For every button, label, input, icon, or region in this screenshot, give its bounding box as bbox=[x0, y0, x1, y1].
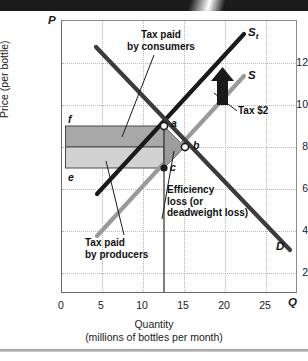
x-axis-title-primary: Quantity bbox=[0, 318, 308, 330]
x-tick-20: 20 bbox=[218, 299, 230, 311]
annotation-tax-consumers-line1: Tax paid bbox=[106, 29, 216, 41]
bottom-divider-rule bbox=[0, 349, 308, 352]
top-decorative-banner bbox=[0, 0, 308, 11]
annotation-tax-consumers-line2: by consumers bbox=[106, 41, 216, 53]
curve-label-supply: S bbox=[248, 69, 256, 81]
leader-tax-consumers bbox=[122, 55, 154, 137]
curve-label-supply-with-tax: St bbox=[248, 26, 258, 41]
point-c-marker bbox=[160, 164, 167, 171]
annotation-tax-producers-line2: by producers bbox=[85, 249, 185, 261]
x-axis-title-secondary: (millions of bottles per month) bbox=[0, 331, 308, 343]
point-b-marker bbox=[181, 143, 188, 150]
x-tick-0: 0 bbox=[58, 299, 64, 311]
annotation-tax-producers-line1: Tax paid bbox=[85, 237, 185, 249]
point-label-b: b bbox=[193, 139, 199, 151]
curve-label-st-main: S bbox=[248, 26, 256, 38]
chart-inner: f e a b c St S D Tax paid by consumers T… bbox=[62, 21, 296, 292]
point-a-marker bbox=[160, 122, 167, 129]
annotation-efficiency-line1: Efficiency bbox=[167, 184, 273, 196]
curve-label-demand: D bbox=[276, 240, 284, 252]
region-tax-paid-by-producers bbox=[66, 147, 165, 168]
chart-plot-area: f e a b c St S D Tax paid by consumers T… bbox=[61, 20, 297, 293]
annotation-efficiency-loss: Efficiency loss (or deadweight loss) bbox=[167, 184, 273, 219]
area-label-f: f bbox=[68, 113, 72, 125]
banner-streak bbox=[110, 0, 300, 11]
area-label-e: e bbox=[68, 171, 74, 183]
annotation-efficiency-line3: deadweight loss) bbox=[167, 207, 273, 219]
quantity-axis-letter: Q bbox=[288, 296, 297, 308]
point-label-a: a bbox=[171, 117, 177, 129]
x-tick-15: 15 bbox=[177, 299, 189, 311]
y-axis-title: Price (per bottle) bbox=[0, 40, 10, 118]
curve-label-st-subscript: t bbox=[256, 32, 259, 41]
annotation-efficiency-line2: loss (or bbox=[167, 196, 273, 208]
x-tick-5: 5 bbox=[98, 299, 104, 311]
annotation-tax-paid-by-consumers: Tax paid by consumers bbox=[106, 29, 216, 52]
point-label-c: c bbox=[170, 161, 176, 173]
price-axis-letter: P bbox=[48, 14, 56, 26]
annotation-tax-amount: Tax $2 bbox=[238, 105, 268, 117]
x-tick-10: 10 bbox=[136, 299, 148, 311]
x-tick-25: 25 bbox=[259, 299, 271, 311]
annotation-tax-paid-by-producers: Tax paid by producers bbox=[85, 237, 185, 260]
